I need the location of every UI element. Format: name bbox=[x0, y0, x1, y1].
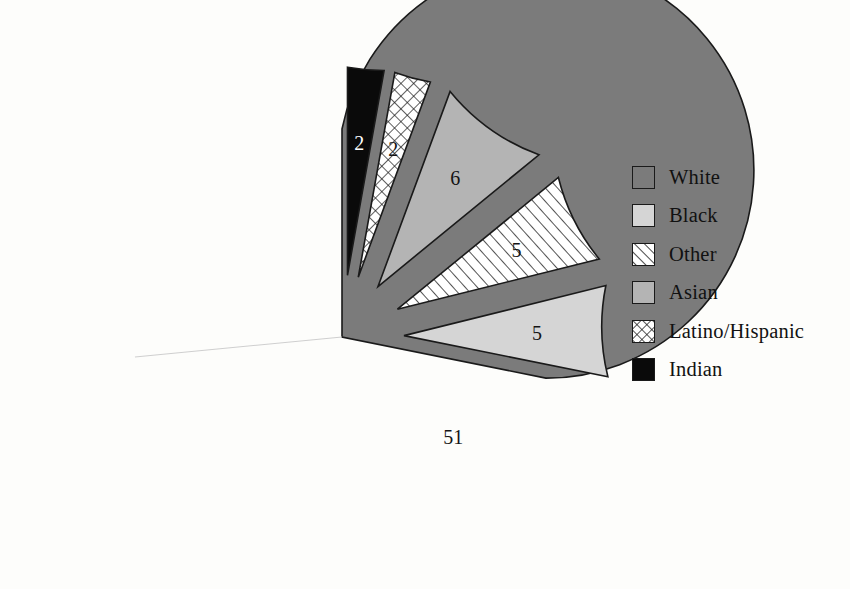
legend-swatch-solid-light-gray bbox=[632, 204, 655, 227]
legend-swatch-solid-black bbox=[632, 358, 655, 381]
legend-label: Black bbox=[669, 204, 718, 227]
legend-label: White bbox=[669, 166, 720, 189]
legend-label: Other bbox=[669, 243, 717, 266]
chart-legend: WhiteBlackOtherAsianLatino/HispanicIndia… bbox=[632, 158, 844, 389]
legend-label: Latino/Hispanic bbox=[669, 320, 804, 343]
pie-slice-seam bbox=[135, 337, 342, 357]
pie-slice-value-indian: 2 bbox=[354, 132, 364, 154]
legend-item-asian[interactable]: Asian bbox=[632, 274, 844, 313]
pie-chart-figure: 5155622 WhiteBlackOtherAsianLatino/Hispa… bbox=[0, 0, 850, 589]
legend-swatch-diagonal-hatch bbox=[632, 243, 655, 266]
pie-slice-value-latino-hispanic: 2 bbox=[388, 138, 398, 160]
legend-swatch-solid-medium-gray bbox=[632, 281, 655, 304]
legend-label: Indian bbox=[669, 358, 723, 381]
pie-slice-value-black: 5 bbox=[532, 322, 542, 344]
legend-swatch-cross-hatch bbox=[632, 320, 655, 343]
legend-item-white[interactable]: White bbox=[632, 158, 844, 197]
legend-swatch-solid-dark-gray bbox=[632, 166, 655, 189]
legend-label: Asian bbox=[669, 281, 718, 304]
pie-slice-value-other: 5 bbox=[511, 239, 521, 261]
pie-slice-value-asian: 6 bbox=[450, 167, 460, 189]
legend-item-other[interactable]: Other bbox=[632, 235, 844, 274]
legend-item-black[interactable]: Black bbox=[632, 197, 844, 236]
pie-slice-value-white: 51 bbox=[443, 426, 463, 448]
legend-item-latino-hispanic[interactable]: Latino/Hispanic bbox=[632, 312, 844, 351]
legend-item-indian[interactable]: Indian bbox=[632, 351, 844, 390]
